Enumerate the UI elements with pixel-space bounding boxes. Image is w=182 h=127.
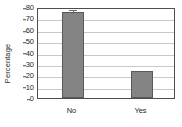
y-axis-tick-label: 40 xyxy=(26,50,34,58)
y-axis-tick-label: 50 xyxy=(26,38,34,46)
y-axis-tick-label: 10 xyxy=(26,84,34,92)
y-axis-tick-label: 30 xyxy=(26,61,34,69)
y-axis-title: Percentage xyxy=(0,0,14,127)
x-axis-tick-label: No xyxy=(67,107,77,115)
plot-inner xyxy=(38,9,174,98)
y-axis-tick-mark xyxy=(23,31,26,32)
y-axis-tick-mark xyxy=(23,8,26,9)
y-axis-tick-label: 60 xyxy=(26,27,34,35)
y-axis-tick-label: 20 xyxy=(26,73,34,81)
gridline xyxy=(38,20,174,21)
x-axis-tick-label: Yes xyxy=(134,107,146,115)
y-axis-tick-label: 80 xyxy=(26,4,34,12)
bar xyxy=(131,71,153,98)
gridline xyxy=(38,89,174,90)
bar xyxy=(62,12,84,98)
y-axis-tick-mark xyxy=(27,99,30,100)
gridline xyxy=(38,32,174,33)
gridline xyxy=(38,77,174,78)
bar-chart: Percentage 01020304050607080 NoYes xyxy=(0,0,182,127)
y-axis-tick-label: 0 xyxy=(30,95,34,103)
error-bar-cap xyxy=(69,10,77,11)
y-axis-tick-mark xyxy=(23,19,26,20)
y-axis-tick-labels: 01020304050607080 xyxy=(14,8,34,99)
gridline xyxy=(38,43,174,44)
y-axis-tick-mark xyxy=(23,88,26,89)
gridline xyxy=(38,66,174,67)
y-axis-tick-mark xyxy=(23,54,26,55)
y-axis-tick-mark xyxy=(23,65,26,66)
y-axis-tick-label: 70 xyxy=(26,16,34,24)
y-axis-tick-mark xyxy=(23,42,26,43)
y-axis-tick-mark xyxy=(23,76,26,77)
gridline xyxy=(38,55,174,56)
plot-area xyxy=(37,8,175,99)
x-axis-tick-labels: NoYes xyxy=(37,100,175,120)
